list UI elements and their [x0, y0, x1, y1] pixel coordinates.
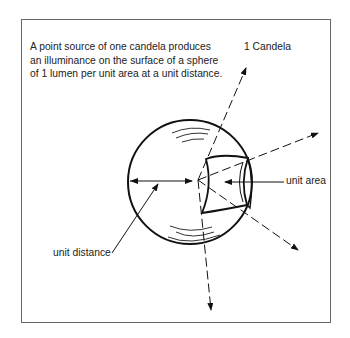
unit-distance-label: unit distance — [53, 247, 111, 258]
candela-label: 1 Candela — [244, 41, 291, 52]
unit-area-label: unit area — [286, 175, 326, 186]
sphere-diagram — [0, 0, 350, 338]
unit-area-patch — [202, 156, 248, 213]
